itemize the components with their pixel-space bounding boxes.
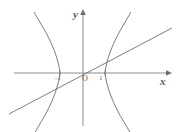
hyperbola-and-line-graph (0, 0, 178, 132)
x-axis-arrowhead (166, 70, 172, 76)
origin-label: O (82, 75, 88, 83)
x-tick-label-pos-one: 1 (99, 75, 103, 82)
straight-line-through-origin (9, 28, 172, 114)
hyperbola-right-branch (105, 12, 131, 73)
hyperbola-left-branch (34, 12, 60, 73)
y-axis-label: y (73, 9, 78, 20)
x-tick-label-neg-one: -1 (55, 75, 61, 82)
y-axis-arrowhead (80, 9, 86, 15)
hyperbola-right-branch-lower (105, 73, 131, 132)
x-axis-label: x (160, 76, 166, 87)
